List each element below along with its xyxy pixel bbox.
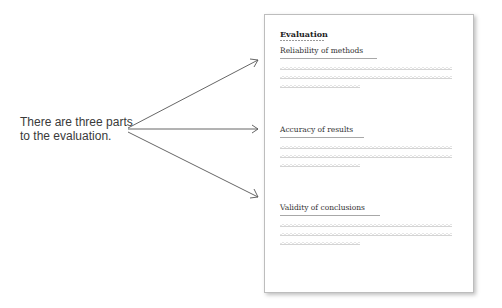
heading-rule <box>280 137 364 138</box>
section-validity: Validity of conclusions <box>280 203 460 249</box>
placeholder-text-lines <box>280 141 455 171</box>
section-heading: Validity of conclusions <box>280 203 460 212</box>
document-title: Evaluation <box>280 29 328 39</box>
title-underline <box>280 40 324 41</box>
document-page: Evaluation Reliability of methods Accura… <box>264 14 474 293</box>
section-accuracy: Accuracy of results <box>280 125 460 171</box>
heading-rule <box>280 215 380 216</box>
section-heading: Accuracy of results <box>280 125 460 134</box>
placeholder-text-lines <box>280 219 455 249</box>
heading-rule <box>280 58 377 59</box>
placeholder-text-lines <box>280 62 455 92</box>
section-heading: Reliability of methods <box>280 46 460 55</box>
arrow-to-reliability <box>128 59 258 128</box>
section-reliability: Reliability of methods <box>280 46 460 92</box>
arrow-to-validity <box>128 132 258 198</box>
arrow-to-accuracy <box>128 125 258 133</box>
